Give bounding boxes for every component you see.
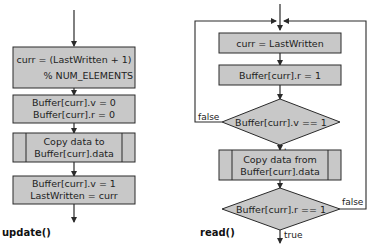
update-step-set-valid: Buffer[curr].v = 1 LastWritten = curr xyxy=(13,176,135,204)
svg-text:Copy data from: Copy data from xyxy=(243,154,317,165)
svg-text:% NUM_ELEMENTS: % NUM_ELEMENTS xyxy=(44,70,134,81)
update-title: update() xyxy=(2,227,51,238)
read-step-set-r: Buffer[curr].r = 1 xyxy=(219,65,341,85)
update-step-reset-flags: Buffer[curr].v = 0 Buffer[curr].r = 0 xyxy=(13,95,135,123)
read-title: read() xyxy=(200,227,235,238)
update-step-compute-curr: curr = (LastWritten + 1) % NUM_ELEMENTS xyxy=(13,47,135,88)
svg-text:Buffer[curr].r == 1: Buffer[curr].r == 1 xyxy=(236,204,326,215)
svg-text:Buffer[curr].v = 1: Buffer[curr].v = 1 xyxy=(32,178,116,189)
svg-text:Buffer[curr].r = 1: Buffer[curr].r = 1 xyxy=(239,70,321,81)
svg-text:Buffer[curr].data: Buffer[curr].data xyxy=(34,148,114,159)
read-decision-v: Buffer[curr].v == 1 false true xyxy=(198,99,340,157)
update-flowchart: curr = (LastWritten + 1) % NUM_ELEMENTS … xyxy=(2,10,135,238)
svg-text:Buffer[curr].r = 0: Buffer[curr].r = 0 xyxy=(33,109,115,120)
svg-text:curr = LastWritten: curr = LastWritten xyxy=(236,38,324,49)
svg-text:Buffer[curr].v = 0: Buffer[curr].v = 0 xyxy=(32,97,116,108)
false-label: false xyxy=(198,112,220,122)
svg-text:Buffer[curr].data: Buffer[curr].data xyxy=(240,166,320,177)
read-decision-r: Buffer[curr].r == 1 false true xyxy=(222,188,364,240)
svg-text:Copy data to: Copy data to xyxy=(43,136,104,147)
update-step-copy-data: Copy data to Buffer[curr].data xyxy=(13,133,135,162)
true-label: true xyxy=(284,230,303,240)
svg-text:curr = (LastWritten + 1): curr = (LastWritten + 1) xyxy=(17,54,132,65)
read-flowchart: curr = LastWritten Buffer[curr].r = 1 Bu… xyxy=(195,4,366,243)
svg-text:Buffer[curr].v == 1: Buffer[curr].v == 1 xyxy=(235,117,327,128)
read-step-copy-data: Copy data from Buffer[curr].data xyxy=(219,150,341,180)
flowchart-canvas: curr = (LastWritten + 1) % NUM_ELEMENTS … xyxy=(0,0,371,245)
false-label: false xyxy=(342,197,364,207)
read-step-curr-last: curr = LastWritten xyxy=(219,33,341,53)
svg-text:LastWritten = curr: LastWritten = curr xyxy=(30,190,118,201)
